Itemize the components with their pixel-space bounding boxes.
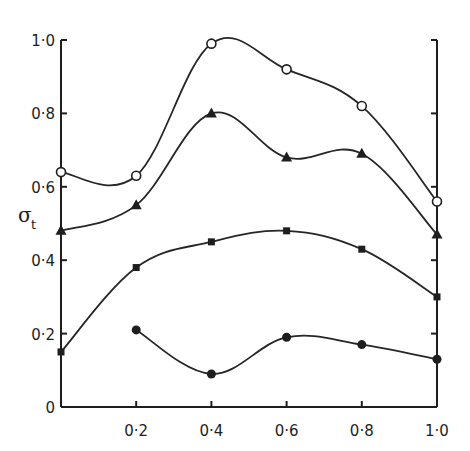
filled-square-marker [434, 293, 441, 300]
y-tick-label: 0·6 [31, 179, 55, 197]
y-axis-label: σ t [18, 203, 36, 232]
y-tick-label: 0·4 [31, 252, 55, 270]
data-series [56, 38, 443, 379]
series-line [61, 231, 437, 352]
open-circle-marker [282, 65, 291, 74]
x-tick-label: 0·2 [124, 422, 148, 440]
open-circle-marker [132, 171, 141, 180]
series-line [61, 112, 437, 234]
filled-square-marker [283, 227, 290, 234]
open-circle-marker [433, 197, 442, 206]
y-tick-label: 1·0 [31, 32, 55, 50]
y-tick-label: 0·8 [31, 105, 55, 123]
series-line [61, 38, 437, 202]
y-axis-label-subscript: t [31, 217, 36, 232]
filled-circle-marker [282, 333, 291, 342]
x-tick-label: 1·0 [425, 422, 449, 440]
filled-square-marker [208, 238, 215, 245]
open-circle-marker [357, 102, 366, 111]
x-tick-label: 0·4 [199, 422, 223, 440]
filled-circle-marker [433, 355, 442, 364]
axes [61, 40, 437, 407]
filled-square-marker [58, 348, 65, 355]
y-tick-label: 0 [45, 399, 55, 417]
series-filled-triangle [56, 107, 443, 238]
series-filled-square [58, 227, 441, 355]
series-filled-circle [132, 325, 442, 378]
y-axis-label-main: σ [18, 203, 32, 227]
open-circle-marker [207, 39, 216, 48]
series-open-circle [57, 38, 442, 206]
filled-square-marker [358, 246, 365, 253]
filled-circle-marker [132, 325, 141, 334]
y-tick-label: 0·2 [31, 326, 55, 344]
open-circle-marker [57, 168, 66, 177]
filled-square-marker [133, 264, 140, 271]
filled-circle-marker [357, 340, 366, 349]
line-chart: 00·20·40·60·81·00·20·40·60·81·0 σ t [0, 0, 470, 451]
x-tick-label: 0·8 [350, 422, 374, 440]
x-tick-label: 0·6 [275, 422, 299, 440]
filled-circle-marker [207, 369, 216, 378]
